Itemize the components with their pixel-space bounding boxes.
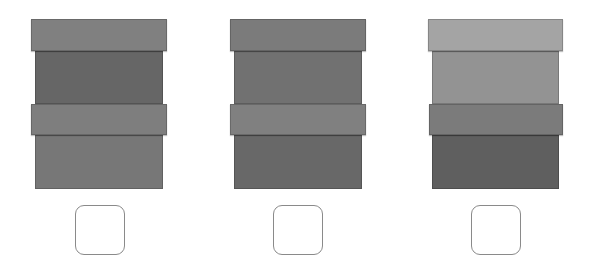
body-segment <box>35 135 163 189</box>
band-segment <box>230 19 366 51</box>
band-segment <box>31 19 167 51</box>
body-segment <box>432 51 559 104</box>
checkbox-option-1[interactable] <box>75 205 125 255</box>
checkbox-option-3[interactable] <box>471 205 521 255</box>
checkbox-option-2[interactable] <box>273 205 323 255</box>
body-segment <box>234 135 362 189</box>
body-segment <box>432 135 559 189</box>
body-segment <box>234 51 362 104</box>
band-segment <box>230 104 366 135</box>
band-segment <box>429 104 563 135</box>
body-segment <box>35 51 163 104</box>
band-segment <box>428 19 563 51</box>
band-segment <box>31 104 167 135</box>
